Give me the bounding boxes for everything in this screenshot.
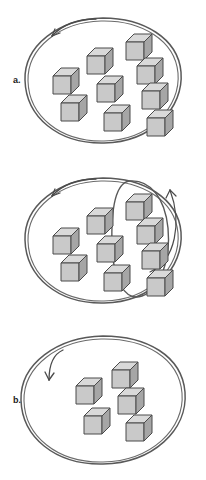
enclosure-outline-c	[21, 336, 185, 464]
panel-c-drawing	[0, 320, 206, 480]
panel-b: b.	[0, 160, 206, 320]
cube	[104, 265, 130, 291]
cube	[126, 34, 152, 60]
cube	[142, 83, 168, 109]
cube	[147, 110, 173, 136]
cube	[137, 218, 163, 244]
cube	[118, 388, 144, 414]
cube	[53, 68, 79, 94]
cube	[126, 415, 152, 441]
cube-group-a	[53, 34, 173, 136]
cube	[76, 378, 102, 404]
cube	[84, 408, 110, 434]
cube	[126, 194, 152, 220]
cube	[87, 208, 113, 234]
cube	[61, 95, 87, 121]
figure-root: a.	[0, 0, 206, 480]
cube	[97, 236, 123, 262]
cube	[142, 243, 168, 269]
cube	[97, 76, 123, 102]
cube-group-c	[76, 362, 152, 441]
cube	[104, 105, 130, 131]
cube	[87, 48, 113, 74]
panel-c: c.	[0, 320, 206, 480]
panel-a: a.	[0, 0, 206, 160]
arrow-into-enclosure-c	[45, 350, 63, 380]
panel-b-drawing	[0, 160, 206, 320]
cube	[61, 255, 87, 281]
cube	[147, 270, 173, 296]
cube-group-b	[53, 194, 173, 296]
cube	[53, 228, 79, 254]
panel-a-drawing	[0, 0, 206, 160]
cube	[137, 58, 163, 84]
cube	[112, 362, 138, 388]
